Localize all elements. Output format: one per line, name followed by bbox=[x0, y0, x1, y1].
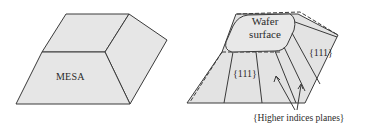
plane-111-front-label: {111} bbox=[233, 69, 257, 79]
wafer-surface-line2: surface bbox=[241, 28, 289, 41]
mesa-label: MESA bbox=[56, 72, 85, 82]
wafer-surface-line1: Wafer bbox=[241, 15, 289, 28]
mesa-shape bbox=[16, 14, 167, 104]
wafer-surface-label: Wafer surface bbox=[241, 15, 289, 41]
plane-111-right-label: {111} bbox=[309, 48, 333, 58]
higher-indices-planes-label: {Higher indices planes} bbox=[253, 114, 344, 124]
